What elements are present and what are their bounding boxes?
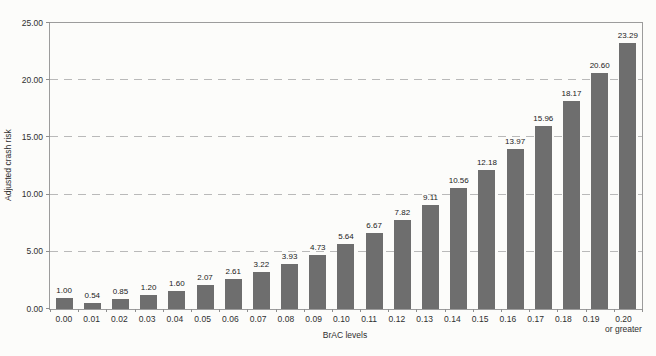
x-tick-mark xyxy=(106,309,107,312)
bar-value-label: 6.67 xyxy=(366,222,382,230)
bar-value-label: 5.64 xyxy=(338,233,354,241)
bar-slot-0.10: 5.64 xyxy=(332,23,360,309)
bar-0.00 xyxy=(56,298,73,309)
x-axis-title: BrAC levels xyxy=(49,330,641,340)
x-tick-mark xyxy=(78,309,79,312)
x-tick-mark xyxy=(586,309,587,312)
x-tick-mark xyxy=(445,309,446,312)
bar-0.03 xyxy=(140,295,157,309)
x-tick-mark xyxy=(247,309,248,312)
bar-0.07 xyxy=(253,272,270,309)
bar-value-label: 9.11 xyxy=(423,194,438,202)
y-tick-label: 0.00 xyxy=(26,305,43,314)
bar-slot-0.05: 2.07 xyxy=(191,23,219,309)
bar-slot-0.17: 15.96 xyxy=(529,23,557,309)
bar-value-label: 2.61 xyxy=(225,268,241,276)
bar-value-label: 10.56 xyxy=(449,177,469,185)
bar-value-label: 13.97 xyxy=(505,138,525,146)
bar-slot-0.08: 3.93 xyxy=(276,23,304,309)
bar-0.12 xyxy=(394,220,411,309)
x-tick-mark xyxy=(614,309,615,312)
bar-0.01 xyxy=(84,303,101,309)
bar-slot-0.12: 7.82 xyxy=(388,23,416,309)
x-tick-mark xyxy=(276,309,277,312)
bar-slot-0.18: 18.17 xyxy=(557,23,585,309)
bar-0.18 xyxy=(563,101,580,309)
x-tick-mark xyxy=(163,309,164,312)
x-tick-mark xyxy=(529,309,530,312)
x-tick-mark xyxy=(557,309,558,312)
bar-value-label: 0.54 xyxy=(84,292,100,300)
plot-area: 0.005.0010.0015.0020.0025.001.000.540.85… xyxy=(49,22,643,310)
bar-0.19 xyxy=(591,73,608,309)
bar-slot-0.06: 2.61 xyxy=(219,23,247,309)
bar-value-label: 4.73 xyxy=(310,244,326,252)
bar-slot-0.09: 4.73 xyxy=(304,23,332,309)
bar-0.09 xyxy=(309,255,326,309)
y-axis-title: Adjusted crash risk xyxy=(2,22,14,308)
bar-value-label: 1.00 xyxy=(56,287,72,295)
bar-value-label: 18.17 xyxy=(561,90,581,98)
bar-slot-0.03: 1.20 xyxy=(135,23,163,309)
bar-slot-0.07: 3.22 xyxy=(247,23,275,309)
bar-0.05 xyxy=(197,285,214,309)
bar-value-label: 2.07 xyxy=(197,274,213,282)
bar-0.20 xyxy=(619,43,636,309)
x-tick-mark xyxy=(304,309,305,312)
bar-0.13 xyxy=(422,205,439,309)
y-tick-label: 25.00 xyxy=(22,19,43,28)
bar-slot-0.04: 1.60 xyxy=(163,23,191,309)
y-tick-label: 5.00 xyxy=(26,248,43,257)
bar-0.04 xyxy=(168,291,185,309)
x-tick-mark xyxy=(135,309,136,312)
bar-0.10 xyxy=(337,244,354,309)
x-tick-mark xyxy=(219,309,220,312)
bars-container: 1.000.540.851.201.602.072.613.223.934.73… xyxy=(50,23,642,309)
bar-slot-0.02: 0.85 xyxy=(106,23,134,309)
bar-value-label: 3.22 xyxy=(254,261,270,269)
bar-slot-0.00: 1.00 xyxy=(50,23,78,309)
x-tick-mark xyxy=(473,309,474,312)
bar-slot-0.20: 23.29 xyxy=(614,23,642,309)
bar-value-label: 3.93 xyxy=(282,253,298,261)
bar-0.16 xyxy=(507,149,524,309)
bar-0.14 xyxy=(450,188,467,309)
bar-slot-0.01: 0.54 xyxy=(78,23,106,309)
bar-value-label: 20.60 xyxy=(590,62,610,70)
x-tick-mark xyxy=(501,309,502,312)
bar-value-label: 23.29 xyxy=(618,32,638,40)
bar-0.08 xyxy=(281,264,298,309)
bar-value-label: 15.96 xyxy=(533,115,553,123)
bar-slot-0.16: 13.97 xyxy=(501,23,529,309)
bar-0.06 xyxy=(225,279,242,309)
y-tick-label: 20.00 xyxy=(22,76,43,85)
bar-value-label: 0.85 xyxy=(113,288,129,296)
bar-0.02 xyxy=(112,299,129,309)
x-tick-mark xyxy=(332,309,333,312)
bar-value-label: 1.60 xyxy=(169,280,185,288)
x-tick-mark xyxy=(360,309,361,312)
bar-0.15 xyxy=(478,170,495,309)
y-tick-label: 15.00 xyxy=(22,133,43,142)
bar-chart-figure: Adjusted crash risk 0.005.0010.0015.0020… xyxy=(0,0,656,356)
bar-slot-0.15: 12.18 xyxy=(473,23,501,309)
bar-value-label: 7.82 xyxy=(395,209,411,217)
bar-slot-0.13: 9.11 xyxy=(416,23,444,309)
bar-slot-0.14: 10.56 xyxy=(445,23,473,309)
bar-slot-0.11: 6.67 xyxy=(360,23,388,309)
bar-0.17 xyxy=(535,126,552,309)
bar-0.11 xyxy=(366,233,383,309)
y-tick-label: 10.00 xyxy=(22,190,43,199)
x-tick-mark xyxy=(191,309,192,312)
bar-value-label: 12.18 xyxy=(477,159,497,167)
bar-slot-0.19: 20.60 xyxy=(586,23,614,309)
x-tick-mark xyxy=(50,309,51,312)
x-tick-mark xyxy=(642,309,643,312)
x-tick-mark xyxy=(416,309,417,312)
bar-value-label: 1.20 xyxy=(141,284,157,292)
x-tick-mark xyxy=(388,309,389,312)
